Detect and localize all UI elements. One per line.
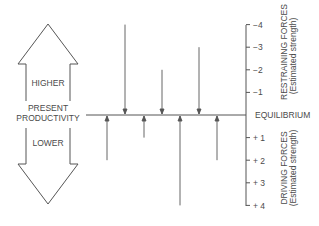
tick-minus-4: −4 — [253, 21, 263, 30]
tick-plus-1: + 1 — [253, 134, 265, 143]
restraining-forces-label: RESTRAINING FORCES (Estimated strength) — [280, 12, 299, 100]
tick-minus-1: −1 — [253, 88, 263, 97]
tick-minus-3: −3 — [253, 43, 263, 52]
higher-label: HIGHER — [28, 79, 68, 88]
tick-plus-3: + 3 — [253, 179, 265, 188]
tick-plus-4: + 4 — [253, 202, 265, 211]
arrowhead-icon — [142, 116, 146, 121]
lower-label: LOWER — [28, 139, 68, 148]
equilibrium-label: EQUILIBRIUM — [255, 111, 310, 120]
arrowhead-icon — [123, 109, 127, 114]
arrowhead-icon — [178, 116, 182, 121]
arrowhead-icon — [160, 109, 164, 114]
driving-subtitle: (Estimated strength) — [289, 126, 298, 210]
driving-forces-label: DRIVING FORCES (Estimated strength) — [280, 126, 299, 210]
tick-plus-2: + 2 — [253, 157, 265, 166]
arrowhead-icon — [215, 116, 219, 121]
restraining-subtitle: (Estimated strength) — [289, 12, 298, 100]
arrowhead-icon — [197, 109, 201, 114]
tick-minus-2: −2 — [253, 66, 263, 75]
present-label: PRESENT — [8, 104, 88, 113]
arrowhead-icon — [105, 116, 109, 121]
productivity-label: PRODUCTIVITY — [8, 114, 88, 123]
